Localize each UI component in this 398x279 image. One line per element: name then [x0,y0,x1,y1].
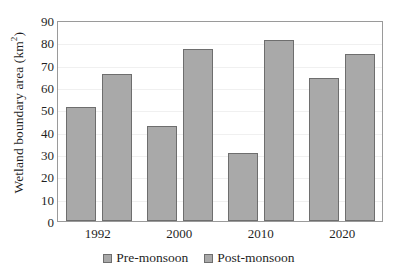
y-tick-label: 10 [26,193,54,206]
plot-area [57,21,383,222]
legend-swatch-icon [103,254,112,263]
bar-pre-monsoon-2020 [309,78,339,221]
y-tick-label: 70 [26,59,54,72]
y-axis-tick-labels: 9080706050403020100 [26,21,54,222]
legend-item-post-monsoon[interactable]: Post-monsoon [204,250,294,266]
x-tick-label: 1992 [57,226,139,242]
y-axis-title-superscript: 2 [9,37,19,42]
bar-group-1992 [58,22,139,221]
y-tick-label: 50 [26,104,54,117]
y-tick-label: 30 [26,149,54,162]
legend: Pre-monsoonPost-monsoon [0,250,398,266]
x-tick-label: 2020 [302,226,384,242]
bar-post-monsoon-1992 [102,74,132,221]
legend-swatch-icon [204,254,213,263]
legend-item-pre-monsoon[interactable]: Pre-monsoon [103,250,188,266]
legend-label: Post-monsoon [217,250,294,266]
bar-group-2020 [301,22,382,221]
y-tick-label: 90 [26,15,54,28]
y-axis-title-tail: ) [11,32,26,37]
y-tick-label: 0 [26,216,54,229]
y-axis-title-base: Wetland boundary area (km [11,41,26,193]
y-tick-label: 40 [26,126,54,139]
bar-pre-monsoon-2000 [147,126,177,221]
y-tick-label: 60 [26,82,54,95]
bar-chart: Wetland boundary area (km2) 908070605040… [0,0,398,279]
bars-layer [58,22,382,221]
y-tick-label: 80 [26,37,54,50]
x-tick-label: 2000 [139,226,221,242]
bar-pre-monsoon-2010 [228,153,258,221]
x-axis-tick-labels: 1992200020102020 [57,226,383,242]
y-axis-title: Wetland boundary area (km2) [9,3,27,223]
bar-pre-monsoon-1992 [66,107,96,221]
y-tick-label: 20 [26,171,54,184]
bar-post-monsoon-2010 [264,40,294,221]
x-tick-label: 2010 [220,226,302,242]
bar-group-2010 [220,22,301,221]
bar-post-monsoon-2020 [345,54,375,222]
legend-label: Pre-monsoon [116,250,188,266]
bar-post-monsoon-2000 [183,49,213,221]
bar-group-2000 [139,22,220,221]
